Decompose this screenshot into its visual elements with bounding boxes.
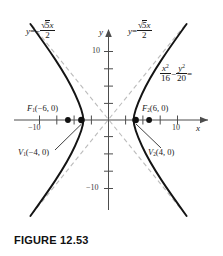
focus-1-point <box>65 117 71 123</box>
y-tick-label-negative-10: −10 <box>86 184 99 192</box>
focus-1-label: F1(−6, 0) <box>27 104 58 113</box>
x-tick-label-10: 10 <box>172 124 180 132</box>
equation-x-numerator: x2 <box>160 64 171 73</box>
y-tick-label-10: 10 <box>92 47 100 55</box>
focus-1-coords: (−6, 0) <box>35 103 58 113</box>
vertex-2-point <box>132 117 139 124</box>
asymptote-label-right: y=√5x2 <box>128 20 152 40</box>
y-axis-arrowhead <box>105 29 112 37</box>
vertex-2-label: V2(4, 0) <box>148 148 174 157</box>
asymptote-right-numerator: √5x <box>137 20 151 30</box>
x-axis-arrowhead <box>200 117 208 124</box>
y-axis-label: y <box>99 28 103 37</box>
equation-y-numerator: y2 <box>176 64 187 73</box>
equation-y-denominator: 20 <box>176 73 187 83</box>
vertex-1-point <box>78 117 85 124</box>
equation-x-exponent: 2 <box>166 63 169 69</box>
hyperbola-equation-label: x216−y220= <box>160 64 192 83</box>
focus-2-point <box>146 117 152 123</box>
figure-container: y=−√5x2 y=√5x2 x216−y220= F1(−6, 0) F2(6… <box>0 0 223 256</box>
vertex-1-leader <box>55 124 82 150</box>
asymptote-left-denominator: 2 <box>40 30 54 40</box>
vertex-2-coords: (4, 0) <box>156 147 174 157</box>
equation-equals: = <box>187 69 192 79</box>
vertex-1-label: V1(−4, 0) <box>18 148 49 157</box>
equation-y-fraction: y220 <box>176 64 187 83</box>
vertex-2-leader <box>136 124 161 148</box>
asymptote-right-variable: x <box>147 20 151 30</box>
axis-lines <box>14 29 208 210</box>
equation-y-exponent: 2 <box>182 63 185 69</box>
x-axis-label: x <box>196 124 200 133</box>
equation-x-fraction: x216 <box>160 64 171 83</box>
asymptote-right-fraction: √5x2 <box>137 20 151 40</box>
asymptote-left-variable: x <box>50 20 54 30</box>
asymptote-left-fraction: √5x2 <box>40 20 54 40</box>
equation-x-denominator: 16 <box>160 73 171 83</box>
asymptote-label-left: y=−√5x2 <box>26 20 55 40</box>
x-tick-label-negative-10: −10 <box>28 124 41 132</box>
asymptote-right-denominator: 2 <box>137 30 151 40</box>
focus-2-label: F2(6, 0) <box>142 104 168 113</box>
vertex-1-coords: (−4, 0) <box>26 147 49 157</box>
asymptote-left-numerator: √5x <box>40 20 54 30</box>
focus-2-coords: (6, 0) <box>150 103 168 113</box>
figure-caption: FIGURE 12.53 <box>14 234 89 246</box>
